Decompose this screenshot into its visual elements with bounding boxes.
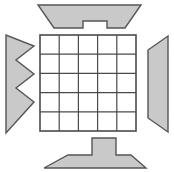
grid-group: 5 by 5 square grid [40, 35, 136, 131]
dissection-puzzle-figure: Top notched trapezoidLeft zigzag arrowRi… [0, 0, 174, 172]
right-piece: Right quadrilateral [148, 36, 168, 132]
figure-canvas: Top notched trapezoidLeft zigzag arrowRi… [0, 0, 174, 172]
grid-background [40, 35, 136, 131]
